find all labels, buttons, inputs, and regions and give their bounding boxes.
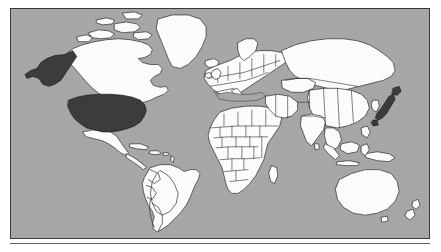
world-map-svg (11, 9, 429, 238)
island-tasmania (381, 216, 388, 222)
bottom-rule (10, 243, 430, 244)
world-map[interactable] (10, 8, 430, 239)
island-sri-lanka (315, 144, 320, 150)
figure-container: World map with highlighted countries (0, 0, 441, 252)
page-title: World map with highlighted countries (0, 21, 1, 22)
highlight-japan-kyushu[interactable] (371, 120, 378, 126)
